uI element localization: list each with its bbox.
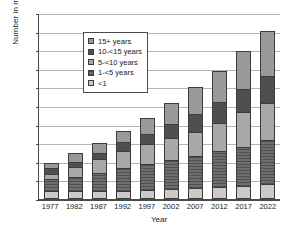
bar-segment	[141, 119, 154, 135]
bar-segment	[213, 188, 226, 198]
bar-segment	[165, 139, 178, 161]
bar-column	[208, 14, 231, 199]
bar-segment	[45, 180, 58, 192]
bar-segment	[93, 174, 106, 193]
stacked-bar	[236, 51, 251, 199]
bar-segment	[141, 191, 154, 198]
x-axis-title: Year	[38, 215, 280, 224]
legend-item: <1	[88, 78, 142, 89]
bar-segment	[213, 72, 226, 104]
legend-item: 10-<15 years	[88, 47, 142, 58]
bar-segment	[141, 165, 154, 191]
bar-segment	[237, 187, 250, 198]
bar-segment	[117, 143, 130, 152]
bar-segment	[117, 192, 130, 199]
legend-swatch-icon	[88, 49, 94, 55]
bar-segment	[261, 141, 274, 185]
bar-segment	[69, 192, 82, 198]
legend-item: 1-<5 years	[88, 68, 142, 79]
x-axis-tick-label: 2022	[256, 200, 279, 216]
x-axis-tick-label: 2012	[208, 200, 231, 216]
legend-swatch-icon	[88, 38, 94, 44]
x-axis-ticks: 1977198219871992199720022007201220172022	[38, 200, 280, 216]
x-axis-tick-label: 2007	[184, 200, 207, 216]
stacked-bar	[188, 87, 203, 199]
bar-segment	[261, 104, 274, 141]
legend-swatch-icon	[88, 80, 94, 86]
bar-segment	[189, 189, 202, 198]
bar-column	[256, 14, 279, 199]
stacked-bar	[92, 143, 107, 199]
bar-segment	[261, 77, 274, 104]
bar-segment	[93, 144, 106, 154]
bar-segment	[237, 52, 250, 90]
legend-item-label: 10-<15 years	[98, 48, 142, 56]
y-axis-title: Number in millions	[11, 0, 20, 66]
x-axis-tick-label: 1992	[111, 200, 134, 216]
bar-segment	[189, 157, 202, 189]
stacked-bar	[260, 31, 275, 199]
bar-column	[184, 14, 207, 199]
bar-segment	[141, 135, 154, 145]
bar-segment	[69, 178, 82, 192]
legend-swatch-icon	[88, 70, 94, 76]
legend-item-label: <1	[98, 80, 107, 88]
bar-segment	[213, 124, 226, 153]
x-axis-tick-label: 1977	[39, 200, 62, 216]
x-axis-tick-label: 2017	[232, 200, 255, 216]
stacked-bar	[68, 153, 83, 199]
bar-series-group	[39, 14, 280, 199]
bar-segment	[237, 148, 250, 187]
legend-item-label: 15+ years	[98, 38, 131, 46]
bar-column	[40, 14, 63, 199]
bar-segment	[189, 88, 202, 115]
legend-swatch-icon	[88, 59, 94, 65]
bar-segment	[213, 103, 226, 123]
bar-segment	[141, 145, 154, 165]
x-axis-tick-label: 1987	[87, 200, 110, 216]
chart-legend: 15+ years10-<15 years5-<10 years1-<5 yea…	[83, 32, 148, 93]
bar-segment	[165, 190, 178, 198]
bar-column	[160, 14, 183, 199]
stacked-bar	[212, 71, 227, 199]
bar-segment	[117, 152, 130, 169]
bar-segment	[117, 132, 130, 143]
bar-segment	[237, 90, 250, 113]
bar-segment	[189, 115, 202, 133]
legend-item: 15+ years	[88, 36, 142, 47]
bar-segment	[117, 169, 130, 191]
stacked-bar	[116, 131, 131, 199]
plot-area: Number in millions 02468101214161820 15+…	[38, 14, 280, 200]
bar-segment	[213, 152, 226, 187]
legend-item: 5-<10 years	[88, 57, 142, 68]
stacked-bar-chart: Number in millions 02468101214161820 15+…	[0, 0, 288, 245]
legend-item-label: 5-<10 years	[98, 59, 138, 67]
legend-item-label: 1-<5 years	[98, 69, 134, 77]
stacked-bar	[164, 103, 179, 199]
bar-segment	[69, 154, 82, 162]
bar-segment	[261, 32, 274, 78]
stacked-bar	[140, 118, 155, 199]
bar-segment	[261, 185, 274, 198]
stacked-bar	[44, 163, 59, 199]
bar-segment	[69, 168, 82, 178]
bar-segment	[45, 192, 58, 198]
bar-segment	[165, 161, 178, 190]
bar-segment	[165, 125, 178, 139]
bar-segment	[93, 192, 106, 198]
bar-segment	[165, 104, 178, 124]
x-axis-tick-label: 2002	[160, 200, 183, 216]
bar-segment	[189, 133, 202, 157]
bar-segment	[237, 113, 250, 147]
bar-segment	[93, 160, 106, 174]
bar-column	[232, 14, 255, 199]
x-axis-tick-label: 1982	[63, 200, 86, 216]
x-axis-tick-label: 1997	[135, 200, 158, 216]
